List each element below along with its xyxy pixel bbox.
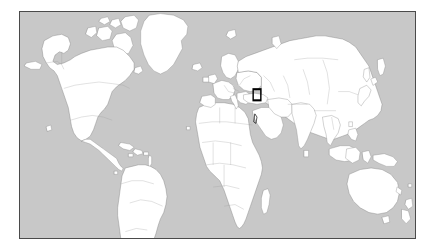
land-ireland (203, 77, 208, 82)
land-jamaica (129, 154, 133, 157)
world-map-frame[interactable] (19, 11, 416, 239)
land-fiji (408, 184, 411, 187)
land-cape-verde (187, 127, 190, 130)
land-sri-lanka (304, 150, 308, 156)
world-map-svg[interactable] (20, 12, 415, 238)
land-puerto-rico (144, 152, 148, 155)
page-root (0, 0, 436, 252)
land-galapagos (114, 171, 117, 174)
land-taiwan (349, 122, 352, 127)
